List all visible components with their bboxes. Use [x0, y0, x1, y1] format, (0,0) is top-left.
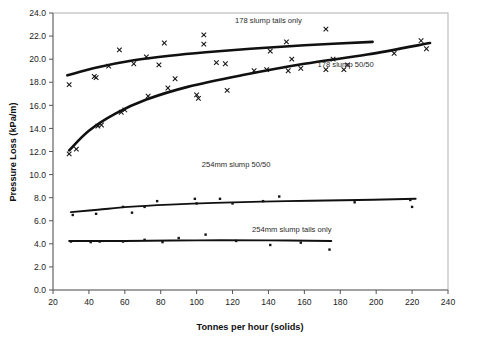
- data-point-dot-marker: [204, 233, 206, 235]
- y-tick-label: 20.0: [29, 54, 46, 64]
- pressure-loss-scatter-chart: 0.02.04.06.08.010.012.014.016.018.020.02…: [0, 0, 480, 348]
- x-tick-label: 40: [84, 297, 94, 307]
- data-point-dot-marker: [409, 199, 411, 201]
- data-point-dot-marker: [143, 239, 145, 241]
- data-point-dot-marker: [262, 200, 264, 202]
- series-label-1: 178 slump tails only: [235, 16, 302, 25]
- data-point-dot-marker: [161, 241, 163, 243]
- data-point-dot-marker: [72, 214, 74, 216]
- x-axis-title: Tonnes per hour (solids): [196, 322, 303, 332]
- x-tick-label: 120: [225, 297, 240, 307]
- series-label-4: 254mm slump tails only: [252, 225, 332, 234]
- data-point-dot-marker: [235, 240, 237, 242]
- y-tick-label: 22.0: [29, 31, 46, 41]
- trend-curve: [69, 240, 331, 241]
- chart-background: [0, 0, 480, 348]
- series-label-3: 254mm slump 50/50: [202, 160, 271, 169]
- y-tick-label: 12.0: [29, 147, 46, 157]
- data-point-dot-marker: [269, 244, 271, 246]
- data-point-dot-marker: [219, 198, 221, 200]
- x-tick-label: 20: [48, 297, 58, 307]
- data-point-dot-marker: [70, 240, 72, 242]
- data-point-dot-marker: [278, 195, 280, 197]
- y-tick-label: 8.0: [34, 193, 46, 203]
- series-label-2: 178 slump 50/50: [318, 60, 374, 69]
- x-tick-label: 200: [369, 297, 384, 307]
- y-tick-label: 4.0: [34, 239, 46, 249]
- data-point-dot-marker: [177, 237, 179, 239]
- y-tick-label: 2.0: [34, 262, 46, 272]
- data-point-dot-marker: [122, 206, 124, 208]
- y-tick-label: 14.0: [29, 124, 46, 134]
- data-point-dot-marker: [156, 200, 158, 202]
- data-point-dot-marker: [353, 201, 355, 203]
- y-tick-label: 24.0: [29, 8, 46, 18]
- data-point-dot-marker: [195, 202, 197, 204]
- x-tick-label: 240: [441, 297, 456, 307]
- x-tick-label: 220: [405, 297, 420, 307]
- data-point-dot-marker: [194, 198, 196, 200]
- x-tick-label: 180: [333, 297, 348, 307]
- y-tick-label: 10.0: [29, 170, 46, 180]
- x-tick-label: 160: [297, 297, 312, 307]
- data-point-dot-marker: [131, 211, 133, 213]
- data-point-dot-marker: [300, 241, 302, 243]
- data-point-dot-marker: [98, 240, 100, 242]
- y-tick-label: 0.0: [34, 285, 46, 295]
- y-tick-label: 18.0: [29, 77, 46, 87]
- data-point-dot-marker: [90, 241, 92, 243]
- data-point-dot-marker: [143, 206, 145, 208]
- data-point-dot-marker: [95, 213, 97, 215]
- x-tick-label: 80: [156, 297, 166, 307]
- data-point-dot-marker: [328, 248, 330, 250]
- data-point-dot-marker: [231, 202, 233, 204]
- x-tick-label: 100: [189, 297, 204, 307]
- data-point-dot-marker: [122, 240, 124, 242]
- x-tick-label: 140: [261, 297, 276, 307]
- y-tick-label: 6.0: [34, 216, 46, 226]
- chart-container: 0.02.04.06.08.010.012.014.016.018.020.02…: [0, 0, 480, 348]
- data-point-dot-marker: [411, 206, 413, 208]
- x-tick-label: 60: [120, 297, 130, 307]
- y-axis-title: Pressure Loss (kPa/m): [8, 102, 18, 201]
- y-tick-label: 16.0: [29, 101, 46, 111]
